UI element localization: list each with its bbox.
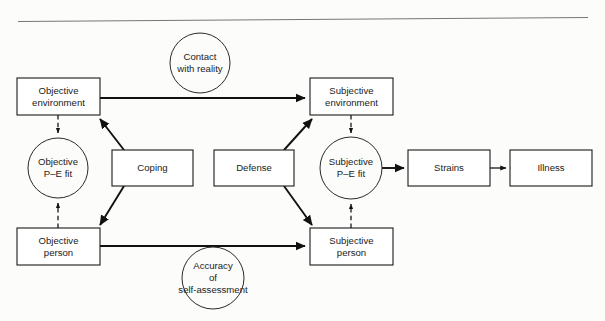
node-subjective-pe-fit-label-line1: Subjective bbox=[329, 156, 373, 167]
figure-canvas: Objective environment Subjective environ… bbox=[0, 0, 605, 321]
node-objective-person-label-line2: person bbox=[44, 247, 73, 258]
edge-coping-to-objective-environment bbox=[100, 119, 124, 150]
node-objective-pe-fit[interactable]: Objective P–E fit bbox=[28, 138, 88, 198]
node-objective-environment[interactable]: Objective environment bbox=[17, 78, 100, 115]
node-contact-with-reality-label-line2: with reality bbox=[176, 63, 223, 74]
node-objective-person[interactable]: Objective person bbox=[17, 228, 100, 265]
node-objective-pe-fit-label-line2: P–E fit bbox=[44, 168, 73, 179]
top-divider-rule bbox=[18, 18, 588, 22]
node-illness[interactable]: Illness bbox=[510, 150, 592, 186]
node-subjective-person[interactable]: Subjective person bbox=[310, 228, 393, 265]
node-accuracy-of-self-assessment-label-line2: of bbox=[209, 272, 217, 283]
edge-coping-to-objective-person bbox=[100, 186, 124, 225]
node-objective-environment-label-line2: environment bbox=[32, 97, 85, 108]
node-objective-environment-label-line1: Objective bbox=[39, 85, 79, 96]
node-accuracy-of-self-assessment[interactable]: Accuracy of self-assessment bbox=[178, 247, 248, 309]
node-defense[interactable]: Defense bbox=[214, 150, 294, 186]
node-subjective-person-label-line1: Subjective bbox=[329, 235, 373, 246]
node-coping-label: Coping bbox=[137, 162, 167, 173]
node-accuracy-of-self-assessment-label-line3: self-assessment bbox=[178, 284, 248, 295]
node-strains[interactable]: Strains bbox=[408, 150, 490, 186]
node-contact-with-reality-label-line1: Contact bbox=[183, 51, 216, 62]
node-subjective-pe-fit-label-line2: P–E fit bbox=[337, 168, 366, 179]
edge-defense-to-subjective-person bbox=[284, 186, 312, 225]
node-subjective-environment-label-line2: environment bbox=[325, 97, 378, 108]
node-subjective-environment-label-line1: Subjective bbox=[329, 85, 373, 96]
node-accuracy-of-self-assessment-label-line1: Accuracy bbox=[193, 260, 233, 271]
node-subjective-person-label-line2: person bbox=[337, 247, 366, 258]
node-subjective-environment[interactable]: Subjective environment bbox=[310, 78, 393, 115]
node-strains-label: Strains bbox=[434, 162, 464, 173]
node-objective-pe-fit-label-line1: Objective bbox=[38, 156, 78, 167]
node-illness-label: Illness bbox=[537, 162, 564, 173]
node-subjective-pe-fit[interactable]: Subjective P–E fit bbox=[320, 137, 382, 199]
edge-defense-to-subjective-environment bbox=[284, 119, 312, 150]
node-defense-label: Defense bbox=[236, 162, 272, 173]
node-objective-person-label-line1: Objective bbox=[39, 235, 79, 246]
pe-fit-model-diagram: Objective environment Subjective environ… bbox=[0, 0, 605, 321]
node-contact-with-reality[interactable]: Contact with reality bbox=[170, 33, 230, 93]
node-coping[interactable]: Coping bbox=[112, 150, 193, 186]
